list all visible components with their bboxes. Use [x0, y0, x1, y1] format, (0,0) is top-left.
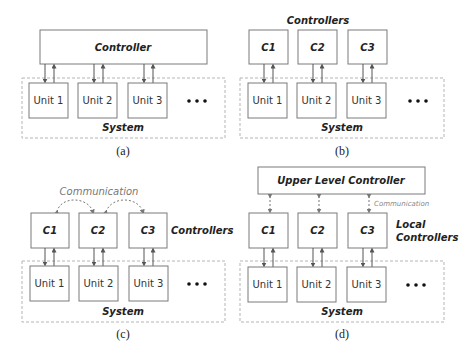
c2-label: C2: [310, 42, 324, 53]
system-label: System: [321, 306, 363, 317]
unit-1-label: Unit 1: [253, 95, 283, 106]
unit-1-label: Unit 1: [253, 279, 283, 290]
c1-label: C1: [261, 225, 275, 236]
c1-label: C1: [261, 42, 275, 53]
upper-level-controller-label: Upper Level Controller: [277, 175, 406, 186]
caption-b: (b): [335, 144, 349, 158]
c3-label: C3: [360, 225, 374, 236]
system-label: System: [102, 122, 144, 133]
controller-label: Controller: [95, 42, 153, 53]
local-controllers-label: Controllers: [396, 232, 458, 243]
communication-label: Communication: [60, 186, 139, 197]
communication-arc-icon: [106, 200, 143, 212]
unit-3-label: Unit 3: [352, 279, 382, 290]
panel-c-distributed: Communication C1 C2 C3 Controllers Unit …: [22, 186, 233, 341]
c1-label: C1: [43, 225, 57, 236]
c2-label: C2: [310, 225, 324, 236]
communication-arc-icon: [57, 200, 93, 212]
unit-1-label: Unit 1: [34, 95, 64, 106]
c3-label: C3: [141, 225, 155, 236]
unit-3-label: Unit 3: [133, 95, 163, 106]
system-label: System: [321, 122, 363, 133]
ellipsis-icon: [187, 99, 207, 103]
panel-a-centralized: Controller Unit 1 Unit 2 Unit 3 System (…: [22, 30, 225, 158]
system-label: System: [102, 306, 144, 317]
ellipsis-icon: [408, 99, 428, 103]
caption-c: (c): [116, 327, 129, 341]
ellipsis-icon: [187, 282, 207, 286]
c2-label: C2: [91, 225, 105, 236]
c3-label: C3: [360, 42, 374, 53]
control-architectures-diagram: Controller Unit 1 Unit 2 Unit 3 System (…: [0, 0, 465, 358]
unit-2-label: Unit 2: [83, 95, 113, 106]
caption-a: (a): [116, 144, 129, 158]
ellipsis-icon: [406, 283, 426, 287]
unit-2-label: Unit 2: [302, 279, 332, 290]
controllers-label: Controllers: [287, 15, 349, 26]
controllers-label: Controllers: [171, 225, 233, 236]
unit-3-label: Unit 3: [352, 95, 382, 106]
panel-d-hierarchical: Upper Level Controller Communication C1 …: [240, 167, 458, 341]
unit-2-label: Unit 2: [302, 95, 332, 106]
local-label: Local: [396, 219, 426, 230]
unit-3-label: Unit 3: [134, 278, 164, 289]
caption-d: (d): [335, 327, 349, 341]
unit-1-label: Unit 1: [35, 278, 65, 289]
panel-b-decentralized: Controllers C1 C2 C3 Unit 1 Unit 2 Unit …: [240, 15, 444, 158]
communication-label: Communication: [374, 200, 429, 208]
unit-2-label: Unit 2: [84, 278, 114, 289]
